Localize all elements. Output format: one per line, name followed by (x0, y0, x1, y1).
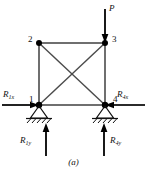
reaction-arrow-R4y-head (101, 123, 108, 132)
node-label-1: 1 (29, 95, 34, 104)
reaction-label-R4x: R4x (117, 90, 128, 99)
reaction-arrow-R1y (43, 123, 50, 156)
truss-figure: 2 3 1 4 P R1x R4x R1y R4y (a) (0, 0, 147, 174)
load-label-P: P (109, 4, 115, 13)
truss-diagonals-group (39, 43, 105, 105)
reaction-label-R4y: R4y (110, 136, 121, 145)
reaction-label-R1x-symbol: R (3, 89, 9, 99)
reaction-label-R4x-symbol: R (117, 89, 123, 99)
node-label-3: 3 (112, 35, 117, 44)
reaction-label-R1x-subscript: 1x (9, 94, 15, 100)
pin-support-node-4 (92, 106, 118, 123)
truss-diagram-canvas (0, 0, 147, 174)
reaction-arrow-R4x (105, 102, 145, 108)
reaction-arrow-R4y (101, 123, 108, 156)
reaction-label-R1y-subscript: 1y (26, 140, 32, 146)
reaction-arrow-R1y-head (43, 123, 50, 132)
figure-caption: (a) (0, 157, 147, 167)
pin-support-node-1 (26, 106, 52, 123)
pin-support-node-1-hatching (27, 119, 51, 124)
reaction-label-R1x: R1x (3, 90, 14, 99)
reaction-label-R4y-symbol: R (110, 135, 116, 145)
load-arrow-P (102, 9, 109, 43)
pin-support-node-4-hatching (93, 119, 117, 124)
reaction-label-R4x-subscript: 4x (123, 94, 129, 100)
reaction-label-R1y-symbol: R (20, 135, 26, 145)
reaction-label-R4y-subscript: 4y (116, 140, 122, 146)
node-2-dot (36, 40, 42, 46)
node-label-2: 2 (28, 35, 33, 44)
reaction-label-R1y: R1y (20, 136, 31, 145)
